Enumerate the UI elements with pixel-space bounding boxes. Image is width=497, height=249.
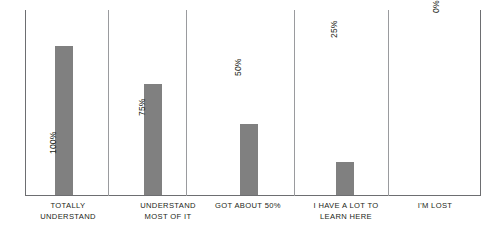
bar-value-label: 25% [329,20,339,38]
bar-cell: 75% [134,10,211,196]
bar-cell: 25% [320,10,413,196]
bar-value-label: 0% [431,0,441,13]
category-label: I HAVE A LOT TO LEARN HERE [296,201,396,222]
bar-value-label: 50% [233,58,243,76]
bar-cell: 50% [212,10,319,196]
bar-chart: 100%75%50%25%0% TOTALLY UNDERSTANDUNDERS… [0,0,497,249]
plot-area: 100%75%50%25%0% [25,10,481,196]
bar [240,124,258,195]
bar [336,162,354,195]
bar-value-label: 100% [48,131,58,154]
bar-cell: 0% [414,10,480,196]
category-label: TOTALLY UNDERSTAND [14,201,122,222]
category-label: I'M LOST [400,201,470,212]
category-label: GOT ABOUT 50% [201,201,295,212]
bar-cell: 100% [25,10,133,196]
plot-right-border [480,10,481,196]
bar-value-label: 75% [137,98,147,116]
bar [55,46,73,195]
